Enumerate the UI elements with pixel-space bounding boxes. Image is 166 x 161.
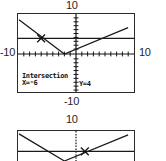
calculator-screen-top[interactable]: Intersection X=-6 Y=4: [17, 13, 135, 93]
calculator-screen-bottom[interactable]: [17, 130, 135, 161]
top-graph-ymin-label: -10: [64, 96, 79, 107]
bottom-graph-plot: [18, 131, 134, 161]
absolute-value-series-2: [19, 134, 128, 161]
top-graph-xmax-label: 10: [139, 47, 151, 58]
x-value: 6: [33, 80, 37, 88]
top-graph-xmin-label: -10: [0, 47, 15, 58]
intersection-readout-x: X=-6: [22, 79, 37, 88]
bottom-graph-ymax-label: 10: [66, 114, 78, 125]
top-graph-ymax-label: 10: [66, 0, 78, 11]
intersection-readout-y: Y=4: [79, 81, 90, 89]
x-prefix: X=: [22, 80, 30, 88]
